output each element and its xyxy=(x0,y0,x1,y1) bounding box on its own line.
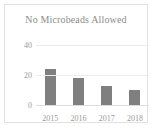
x-axis-line xyxy=(36,105,149,106)
x-tick-slot: 2016 xyxy=(64,107,92,125)
x-axis-tick-label: 2017 xyxy=(99,114,115,123)
x-axis-tick-label: 2015 xyxy=(42,114,58,123)
gridline xyxy=(36,45,149,46)
bar-2018[interactable] xyxy=(129,90,140,105)
y-axis-tick-label: 40 xyxy=(24,41,32,50)
x-axis-tick-label: 2016 xyxy=(70,114,86,123)
plot-area: 02040 xyxy=(36,45,149,105)
chart-title: No Microbeads Allowed xyxy=(5,14,147,25)
y-axis-tick-label: 20 xyxy=(24,71,32,80)
bar-2017[interactable] xyxy=(101,86,112,106)
x-tick-slot: 2018 xyxy=(121,107,149,125)
x-tick-slot: 2015 xyxy=(36,107,64,125)
chart-frame: No Microbeads Allowed 02040 201520162017… xyxy=(4,4,148,123)
x-tick-slot: 2017 xyxy=(93,107,121,125)
bar-2016[interactable] xyxy=(73,78,84,105)
y-axis-tick-label: 0 xyxy=(28,101,32,110)
x-axis-tick-label: 2018 xyxy=(127,114,143,123)
x-axis-tick-labels: 2015201620172018 xyxy=(36,107,149,125)
gridline xyxy=(36,75,149,76)
